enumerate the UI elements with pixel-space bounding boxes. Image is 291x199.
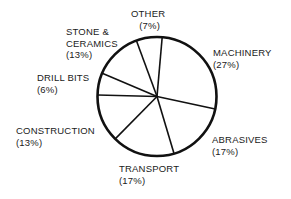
label-stone-ceramics: STONE & CERAMICS (13%) (66, 26, 118, 61)
label-drill-bits: DRILL BITS (6%) (37, 72, 89, 95)
label-abrasives: ABRASIVES (17%) (212, 134, 268, 157)
label-construction: CONSTRUCTION (13%) (16, 125, 95, 148)
slice-divider (157, 97, 215, 110)
label-other: OTHER (7%) (131, 8, 165, 31)
label-machinery: MACHINERY (27%) (213, 47, 272, 70)
slice-divider (102, 73, 157, 96)
slice-divider (98, 95, 157, 96)
slice-divider (136, 41, 157, 97)
label-transport: TRANSPORT (17%) (119, 163, 179, 186)
slice-divider (157, 97, 174, 154)
slice-divider (115, 97, 157, 139)
slice-divider (157, 37, 162, 96)
